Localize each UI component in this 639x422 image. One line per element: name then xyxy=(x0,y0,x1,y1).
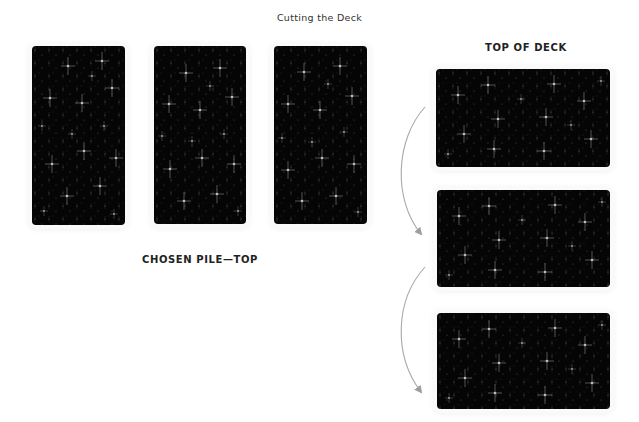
starfield-pattern-icon xyxy=(437,313,610,409)
stack-card-middle xyxy=(437,190,610,287)
pile-card-3 xyxy=(274,46,367,224)
pile-card-2 xyxy=(154,46,246,224)
diagram-title: Cutting the Deck xyxy=(0,12,639,23)
top-of-deck-label: TOP OF DECK xyxy=(485,42,567,53)
starfield-pattern-icon xyxy=(436,69,610,167)
starfield-pattern-icon xyxy=(32,46,125,225)
stack-card-bottom xyxy=(437,313,610,409)
curved-arrow-icon xyxy=(401,267,425,392)
pile-card-1 xyxy=(32,46,125,225)
chosen-pile-label: CHOSEN PILE—TOP xyxy=(142,254,258,265)
curved-arrow-icon xyxy=(401,107,425,234)
stack-card-top xyxy=(436,69,610,167)
starfield-pattern-icon xyxy=(437,190,610,287)
starfield-pattern-icon xyxy=(154,46,246,224)
starfield-pattern-icon xyxy=(274,46,367,224)
